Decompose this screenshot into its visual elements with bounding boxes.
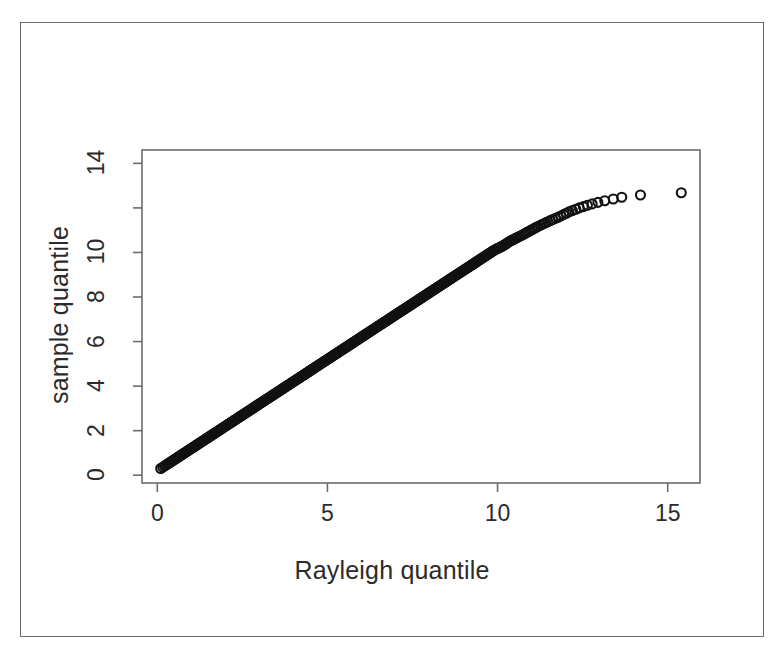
plot-box-border	[142, 150, 700, 483]
plot-area: 051015 024681014 Rayleigh quantile sampl…	[0, 0, 784, 656]
x-tick-label: 5	[297, 500, 357, 527]
figure-root: 051015 024681014 Rayleigh quantile sampl…	[0, 0, 784, 656]
x-tick-label: 10	[468, 500, 528, 527]
y-tick-label: 6	[83, 318, 110, 364]
y-tick-label: 0	[83, 452, 110, 498]
data-point	[677, 188, 686, 197]
x-axis-ticks	[157, 483, 667, 492]
data-points	[156, 188, 686, 473]
x-tick-label: 15	[638, 500, 698, 527]
x-tick-label: 0	[127, 500, 187, 527]
data-point	[636, 190, 645, 199]
y-tick-label: 4	[83, 363, 110, 409]
data-point	[617, 193, 626, 202]
y-tick-label: 10	[83, 229, 110, 275]
y-tick-label: 14	[83, 140, 110, 186]
y-axis-ticks	[133, 163, 142, 475]
axis-box	[142, 150, 700, 483]
x-axis-title: Rayleigh quantile	[0, 556, 784, 585]
y-axis-title-wrapper: sample quantile	[45, 145, 75, 485]
y-tick-label: 8	[83, 274, 110, 320]
y-tick-label: 2	[83, 407, 110, 453]
y-axis-title: sample quantile	[45, 145, 74, 485]
